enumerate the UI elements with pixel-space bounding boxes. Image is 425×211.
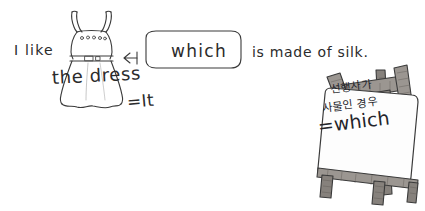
dress-bodice-right (106, 32, 112, 59)
dress-figure (60, 11, 122, 108)
text-i-like: I like (14, 42, 54, 58)
dress-button-1 (81, 37, 84, 40)
dress-bodice-left (71, 32, 77, 59)
easel-rear-foot (407, 182, 418, 203)
text-bubble-which: which (171, 41, 227, 61)
text-is-made-of-silk: is made of silk. (252, 44, 369, 60)
dress-button-5 (104, 37, 107, 40)
dress-button-2 (87, 36, 90, 39)
dress-strap-right-tip (106, 11, 111, 12)
dress-strap-left-inner (77, 12, 82, 32)
text-equals-it: =It (126, 90, 155, 112)
dress-strap-left-tip (72, 11, 77, 12)
dress-button-3 (93, 36, 96, 39)
easel-illustration: 선행사가 사물인 경우 =which (316, 62, 425, 211)
dress-belt-buckle (85, 56, 93, 61)
dress-belt-loop (96, 57, 100, 61)
dress-button-4 (99, 37, 102, 40)
illustration-canvas: I like the dress =It which is made of si… (0, 0, 425, 211)
easel-foot-right (372, 181, 385, 205)
easel-foot-left (320, 175, 333, 198)
dress-strap-right-inner (101, 12, 106, 32)
dress-hem (62, 104, 121, 108)
